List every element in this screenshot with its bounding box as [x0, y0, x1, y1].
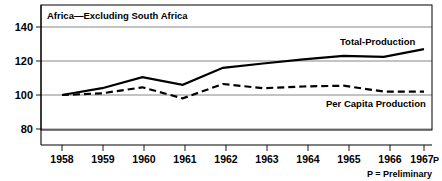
x-axis-label-1967: 1967: [410, 153, 434, 165]
y-axis-label-80: 80: [21, 123, 33, 135]
x-axis-label-1960: 1960: [132, 153, 156, 165]
x-axis-label-1959: 1959: [91, 153, 115, 165]
x-axis-label-1963: 1963: [255, 153, 279, 165]
x-axis-label-1961: 1961: [173, 153, 197, 165]
total-production-label: Total-Production: [340, 36, 415, 47]
y-axis-label-100: 100: [15, 89, 33, 101]
chart-container: 140 120 100 80 1958 1959 1960 1961 1962 …: [0, 0, 442, 181]
production-index-line-chart: 140 120 100 80 1958 1959 1960 1961 1962 …: [0, 0, 442, 181]
footnote-preliminary: P = Preliminary: [367, 169, 432, 179]
y-axis-label-120: 120: [15, 55, 33, 67]
x-axis-label-preliminary-marker: P: [433, 155, 439, 165]
x-axis-label-1966: 1966: [378, 153, 402, 165]
x-axis-label-1958: 1958: [50, 153, 74, 165]
x-axis-ticks: [62, 145, 424, 151]
x-axis-label-1965: 1965: [337, 153, 361, 165]
per-capita-production-label: Per Capita Production: [326, 98, 426, 109]
chart-title: Africa—Excluding South Africa: [47, 10, 188, 21]
plot-background: [41, 5, 432, 130]
x-axis-label-1964: 1964: [296, 153, 320, 165]
y-axis-label-140: 140: [15, 21, 33, 33]
x-axis-label-1962: 1962: [214, 153, 238, 165]
y-axis-ticks: [36, 27, 41, 129]
